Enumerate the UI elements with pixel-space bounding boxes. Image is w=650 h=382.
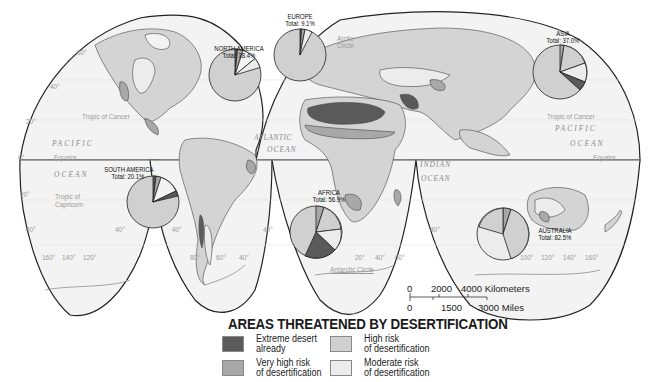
label-tropic-capricorn: Tropic of Capricorn (55, 193, 83, 209)
lat-40s-label-4: 40° (263, 227, 273, 234)
scale-km-0: 0 (407, 284, 412, 294)
label-pacific-west-ocean: OCEAN (54, 171, 89, 179)
label-indian-ocean: OCEAN (421, 175, 451, 183)
scale-km-2000: 2000 (431, 284, 452, 294)
lon-40w-label: 40° (239, 255, 249, 262)
pie-australia (477, 208, 529, 260)
lat-50-label: 50° (77, 50, 87, 57)
lat-20-label: 20° (26, 119, 36, 126)
label-south-america: SOUTH AMERICA Total: 20.1% (104, 166, 152, 180)
pie-europe (274, 29, 326, 81)
lat-20s-label: 20° (20, 192, 30, 199)
lat-40s-label: 40° (26, 227, 36, 234)
scale-km-4000: 4000 Kilometers (461, 284, 530, 294)
label-atlantic: ATLANTIC (254, 134, 292, 142)
legend-label: Moderate riskof desertification (364, 358, 430, 378)
label-antarctic-circle: Antarctic Circle (330, 267, 374, 274)
label-europe: EUROPE Total: 9.1% (283, 13, 317, 27)
legend-item-moderate: Moderate riskof desertification (330, 358, 437, 378)
lon-20e-label: 20° (355, 255, 365, 262)
lon-160e-label: 160° (585, 255, 598, 262)
label-pacific-east-ocean: OCEAN (570, 140, 605, 148)
legend-label: High riskof desertification (364, 334, 430, 354)
label-indian: INDIAN (420, 161, 451, 169)
label-north-america: NORTH AMERICA Total: 18.4% (214, 45, 263, 59)
label-australia: AUSTRALIA Total: 82.5% (536, 227, 573, 241)
label-arctic-circle: Arctic Circle (337, 35, 354, 49)
lon-120e-label: 120° (541, 255, 554, 262)
label-equator-west: Equator (54, 155, 77, 162)
scale-mi-1500: 1500 (441, 303, 462, 313)
lon-40e-label: 40° (375, 255, 385, 262)
lon-140w-label: 140° (62, 255, 75, 262)
lat-40-label: 40° (50, 84, 60, 91)
label-tropic-cancer-east: Tropic of Cancer (547, 114, 595, 121)
label-atlantic-ocean: OCEAN (267, 146, 297, 154)
legend-item-very-high: Very high riskof desertification (222, 358, 329, 378)
legend-item-extreme: Extreme desertalready (222, 334, 324, 354)
legend-title: AREAS THREATENED BY DESERTIFICATION (228, 316, 508, 332)
label-equator-east: Equator (593, 155, 616, 162)
label-tropic-cancer-west: Tropic of Cancer (82, 114, 130, 121)
swatch-very-high (222, 360, 244, 376)
pie-africa (290, 206, 342, 258)
lat-40s-label-5: 40° (430, 227, 440, 234)
label-asia: ASIA Total: 37.0% (546, 30, 580, 44)
swatch-moderate (330, 360, 352, 376)
lon-80w-label: 80° (190, 255, 200, 262)
label-africa: AFRICA Total: 56.9% (312, 189, 346, 203)
legend-label: Extreme desertalready (256, 334, 317, 354)
lon-120w-label: 120° (83, 255, 96, 262)
lat-40s-label-2: 40° (115, 227, 125, 234)
pie-asia (533, 45, 587, 99)
legend-label: Very high riskof desertification (256, 358, 322, 378)
pie-south-america (127, 176, 179, 228)
legend-item-high: High riskof desertification (330, 334, 437, 354)
swatch-extreme (222, 336, 244, 352)
swatch-high (330, 336, 352, 352)
label-pacific-east: PACIFIC (555, 125, 597, 133)
lon-100e-label: 100° (520, 255, 533, 262)
label-pacific-west: PACIFIC (52, 140, 94, 148)
lon-60w-label: 60° (216, 255, 226, 262)
lat-0-label: 0° (18, 155, 24, 162)
lon-140e-label: 140° (563, 255, 576, 262)
lat-40s-label-3: 40° (172, 227, 182, 234)
scale-mi-0: 0 (407, 303, 412, 313)
scale-mi-3000: 3000 Miles (478, 303, 524, 313)
lon-60e-label: 60° (395, 255, 405, 262)
lon-160w-label: 160° (42, 255, 55, 262)
